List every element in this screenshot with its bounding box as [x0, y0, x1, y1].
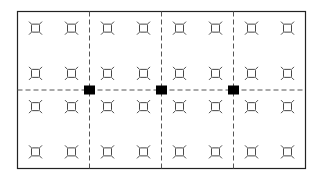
light-fixture-icon	[281, 67, 294, 80]
floor-plan-diagram	[0, 0, 322, 178]
light-fixture-icon	[137, 100, 150, 113]
light-fixture-icon	[245, 100, 258, 113]
light-fixture-icon	[101, 145, 114, 158]
light-fixture-icon	[29, 67, 42, 80]
light-fixture-icon	[281, 145, 294, 158]
light-fixture-icon	[209, 145, 222, 158]
light-fixture-icon	[245, 145, 258, 158]
light-fixture-icon	[281, 100, 294, 113]
light-fixture-icon	[101, 67, 114, 80]
light-fixture-icon	[209, 67, 222, 80]
light-fixture-icon	[101, 22, 114, 35]
light-fixture-icon	[245, 67, 258, 80]
light-fixture-icon	[29, 100, 42, 113]
light-fixture-icon	[209, 100, 222, 113]
square-marker-icon	[228, 86, 239, 95]
light-fixture-icon	[173, 145, 186, 158]
light-fixture-icon	[29, 22, 42, 35]
light-fixture-icon	[173, 22, 186, 35]
square-marker-icon	[156, 86, 167, 95]
light-fixture-icon	[281, 22, 294, 35]
light-fixture-icon	[65, 22, 78, 35]
light-fixture-icon	[209, 22, 222, 35]
light-fixture-icon	[173, 100, 186, 113]
light-fixture-icon	[137, 67, 150, 80]
light-fixture-icon	[29, 145, 42, 158]
light-fixture-icon	[65, 67, 78, 80]
light-fixture-icon	[173, 67, 186, 80]
light-fixture-icon	[65, 100, 78, 113]
light-fixture-icon	[137, 145, 150, 158]
light-fixture-icon	[65, 145, 78, 158]
light-fixture-icon	[137, 22, 150, 35]
light-fixture-icon	[101, 100, 114, 113]
light-fixture-icon	[245, 22, 258, 35]
square-marker-icon	[84, 86, 95, 95]
